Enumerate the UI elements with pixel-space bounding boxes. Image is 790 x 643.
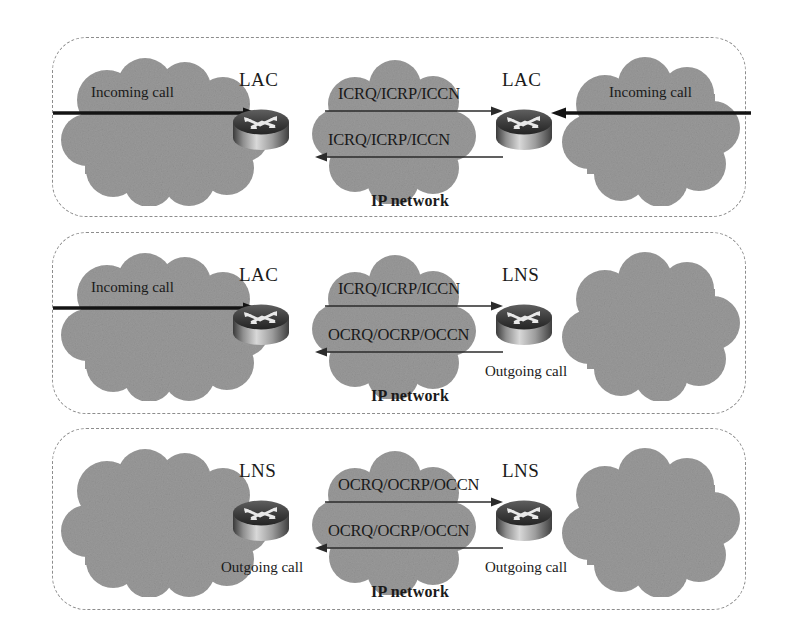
ip-network-label: IP network bbox=[371, 193, 449, 209]
top-message-label: ICRQ/ICRP/ICCN bbox=[338, 86, 460, 103]
scenario-panel-2: Incoming call Outgoing call LAC LNS ICRQ… bbox=[52, 232, 746, 414]
right-device-label: LAC bbox=[502, 70, 541, 89]
right-call-arrow bbox=[551, 106, 751, 120]
right-access-network-cloud bbox=[561, 445, 743, 597]
left-device-label: LNS bbox=[239, 461, 276, 480]
right-router-below-label: Outgoing call bbox=[485, 560, 567, 575]
left-cloud-call-label: Incoming call bbox=[91, 280, 174, 295]
left-router-below-label: Outgoing call bbox=[221, 560, 303, 575]
center-top-message-arrow bbox=[325, 495, 503, 509]
center-top-message-arrow bbox=[325, 299, 503, 313]
bottom-message-label: OCRQ/OCRP/OCCN bbox=[328, 523, 469, 540]
right-router-below-label: Outgoing call bbox=[485, 364, 567, 379]
center-bottom-message-arrow bbox=[315, 150, 503, 164]
left-router-icon bbox=[230, 295, 292, 351]
top-message-label: ICRQ/ICRP/ICCN bbox=[338, 281, 460, 298]
scenario-panel-3: Outgoing call Outgoing call LNS LNS OCRQ… bbox=[52, 428, 746, 610]
center-top-message-arrow bbox=[325, 104, 503, 118]
l2tp-call-scenarios-diagram: Incoming call Incoming call LAC LAC ICRQ… bbox=[0, 0, 790, 643]
right-access-network-cloud bbox=[561, 249, 743, 401]
right-device-label: LNS bbox=[502, 461, 539, 480]
right-cloud-call-label: Incoming call bbox=[609, 85, 692, 100]
right-router-icon bbox=[493, 100, 555, 156]
left-device-label: LAC bbox=[239, 265, 278, 284]
right-device-label: LNS bbox=[502, 265, 539, 284]
top-message-label: OCRQ/OCRP/OCCN bbox=[338, 477, 479, 494]
left-router-icon bbox=[230, 100, 292, 156]
right-access-network-cloud bbox=[561, 54, 743, 206]
right-router-icon bbox=[493, 295, 555, 351]
center-bottom-message-arrow bbox=[315, 541, 503, 555]
left-device-label: LAC bbox=[239, 70, 278, 89]
left-cloud-call-label: Incoming call bbox=[91, 85, 174, 100]
bottom-message-label: ICRQ/ICRP/ICCN bbox=[328, 132, 450, 149]
ip-network-label: IP network bbox=[371, 388, 449, 404]
left-call-arrow bbox=[53, 301, 258, 315]
bottom-message-label: OCRQ/OCRP/OCCN bbox=[328, 327, 469, 344]
center-bottom-message-arrow bbox=[315, 345, 503, 359]
right-router-icon bbox=[493, 491, 555, 547]
left-router-icon bbox=[230, 491, 292, 547]
left-call-arrow bbox=[53, 106, 258, 120]
scenario-panel-1: Incoming call Incoming call LAC LAC ICRQ… bbox=[52, 37, 746, 217]
ip-network-label: IP network bbox=[371, 584, 449, 600]
